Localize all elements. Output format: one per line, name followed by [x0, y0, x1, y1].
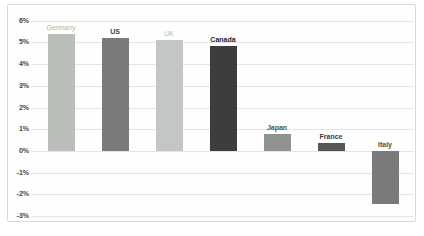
y-axis-tick-4%: 4% — [8, 60, 29, 68]
gridline--2% — [31, 194, 413, 195]
gridline-6% — [31, 21, 413, 22]
y-axis-tick--2%: -2% — [8, 190, 29, 198]
bar-japan — [264, 134, 291, 151]
bar-uk — [156, 40, 183, 151]
bar-label-germany: Germany — [34, 24, 88, 32]
bar-canada — [210, 46, 237, 151]
bar-label-france: France — [304, 133, 358, 141]
gridline--1% — [31, 173, 413, 174]
bar-label-japan: Japan — [250, 124, 304, 132]
y-axis-tick-0%: 0% — [8, 147, 29, 155]
gridline--3% — [31, 216, 413, 217]
y-axis-tick-3%: 3% — [8, 82, 29, 90]
y-axis-tick-2%: 2% — [8, 104, 29, 112]
bar-label-uk: UK — [142, 30, 196, 38]
y-axis-tick-6%: 6% — [8, 17, 29, 25]
bar-us — [102, 38, 129, 151]
bar-france — [318, 143, 345, 151]
y-axis-tick--3%: -3% — [8, 212, 29, 220]
bar-italy — [372, 151, 399, 204]
bar-label-canada: Canada — [196, 36, 250, 44]
bar-chart-plot-area: 6%5%4%3%2%1%0%-1%-2%-3%GermanyUSUKCanada… — [8, 5, 415, 221]
bar-label-italy: Italy — [358, 141, 412, 149]
y-axis-tick-5%: 5% — [8, 38, 29, 46]
bar-chart-card: 6%5%4%3%2%1%0%-1%-2%-3%GermanyUSUKCanada… — [7, 4, 416, 222]
bar-germany — [48, 34, 75, 151]
y-axis-tick-1%: 1% — [8, 125, 29, 133]
bar-label-us: US — [88, 28, 142, 36]
gridline-0% — [31, 151, 413, 152]
y-axis-tick--1%: -1% — [8, 169, 29, 177]
